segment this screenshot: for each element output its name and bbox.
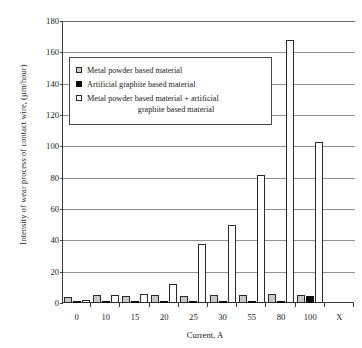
y-tick-label: 0 [31,298,59,308]
x-tick-mark [90,303,91,307]
bar [102,301,110,303]
y-tick-label: 40 [31,235,59,245]
y-tick-label: 120 [31,110,59,120]
legend-item: Metal powder based material [76,65,265,76]
bar [248,301,256,303]
bar [277,301,285,304]
y-tick-label: 60 [31,204,59,214]
bar [140,294,148,303]
x-tick-label: 30 [208,312,237,322]
bar [286,40,294,303]
bar [73,301,81,303]
bar [160,301,168,303]
y-tick-mark [60,303,63,304]
y-tick-label: 160 [31,47,59,57]
x-tick-label: 80 [266,312,295,322]
bar [122,296,130,303]
bar [306,296,314,303]
bar [210,295,218,303]
y-tick-label: 180 [31,16,59,26]
bar [268,294,276,303]
bar [82,300,90,303]
bar [239,295,247,303]
x-tick-label: 15 [120,312,149,322]
x-tick-label: 20 [150,312,179,322]
bar-set [325,21,354,303]
y-tick-label: 80 [31,173,59,183]
x-tick-mark [178,303,179,307]
y-tick-label: 20 [31,267,59,277]
y-axis-title: Intensity of wear process of contact wir… [19,10,28,300]
bar [151,295,159,303]
legend-label: Metal powder based material + artificial… [87,93,265,115]
bar-group: 100 [296,21,325,303]
legend-label: Metal powder based material [87,65,265,76]
x-tick-mark [236,303,237,307]
x-tick-mark [265,303,266,307]
x-tick-label: 10 [91,312,120,322]
bar [257,175,265,303]
bar [228,225,236,303]
chart-legend: Metal powder based materialArtificial gr… [69,57,272,125]
legend-label-line2: graphite based material [87,104,265,115]
x-tick-label: 0 [62,312,91,322]
legend-item: Metal powder based material + artificial… [76,93,265,115]
bar [93,295,101,303]
legend-swatch-icon [76,95,82,101]
legend-label: Artificial graphite based material [87,79,265,90]
x-axis-title: Current, A [55,330,355,340]
x-tick-mark [149,303,150,307]
bar [189,301,197,303]
x-tick-label: 55 [237,312,266,322]
x-tick-mark [324,303,325,307]
bar [169,284,177,303]
x-tick-mark [207,303,208,307]
bar [111,295,119,303]
chart-figure: Intensity of wear process of contact wir… [0,0,362,348]
bar [180,296,188,303]
y-tick-label: 140 [31,79,59,89]
legend-item: Artificial graphite based material [76,79,265,90]
bar [64,297,72,303]
x-tick-label: X [325,312,354,322]
bar [198,244,206,303]
y-tick-label: 100 [31,141,59,151]
bar [219,301,227,303]
x-tick-mark [295,303,296,307]
legend-swatch-icon [76,67,82,73]
x-tick-mark [353,303,354,307]
bar [315,142,323,303]
x-tick-mark [119,303,120,307]
bar-group: X [325,21,354,303]
bar [297,295,305,303]
x-tick-label: 100 [296,312,325,322]
x-tick-label: 25 [179,312,208,322]
bar-set [296,21,325,303]
legend-swatch-icon [76,81,82,87]
bar [131,301,139,303]
